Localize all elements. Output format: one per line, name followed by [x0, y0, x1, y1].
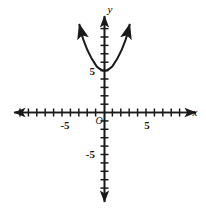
- y-axis-label: y: [107, 3, 113, 15]
- y-axis: [101, 16, 109, 202]
- x-tick-label-neg5: -5: [60, 119, 70, 131]
- origin-label: O: [95, 115, 102, 126]
- coordinate-plane-svg: x y O -5 5 5 -5: [0, 0, 206, 212]
- graph-figure: x y O -5 5 5 -5: [0, 0, 206, 212]
- x-tick-label-5: 5: [144, 119, 150, 131]
- y-tick-label-neg5: -5: [86, 148, 96, 160]
- y-tick-label-5: 5: [90, 65, 96, 77]
- x-axis-label: x: [192, 106, 198, 118]
